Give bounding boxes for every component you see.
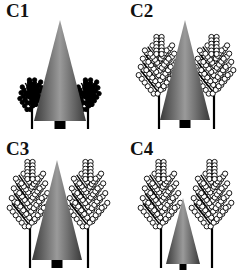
- conifer-tree: [34, 20, 86, 129]
- panel-label: C4: [130, 139, 153, 159]
- panel-c4: C4: [124, 138, 248, 276]
- panel-label: C1: [6, 1, 29, 21]
- panel-c2: C2: [124, 0, 248, 138]
- panel-c3: C3: [0, 138, 124, 276]
- panel-label: C2: [130, 1, 153, 21]
- panel-c1: C1: [0, 0, 124, 138]
- panel-label: C3: [6, 139, 29, 159]
